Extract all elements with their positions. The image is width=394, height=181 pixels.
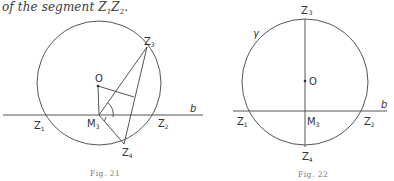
fig22-label-m3: M: [307, 116, 316, 127]
svg-text:Z2: Z2: [158, 118, 169, 130]
fig21-caption: Fig. 21: [90, 169, 120, 178]
figure-21: Z3 O b Z1 M3 Z2 Z4 Fig. 21: [3, 21, 203, 178]
fig21-label-b: b: [190, 103, 196, 114]
fig21-segment-m3-z4: [99, 115, 124, 144]
fig21-angle-arc-lower: [104, 117, 106, 121]
fig21-label-o: O: [95, 73, 103, 84]
fig22-label-b: b: [381, 99, 387, 110]
figures-canvas: Z3 O b Z1 M3 Z2 Z4 Fig. 21 Z3 γ O b Z1 M…: [0, 0, 394, 181]
svg-text:Z1: Z1: [34, 120, 45, 132]
svg-text:Z4: Z4: [122, 147, 133, 159]
fig21-point-o: [97, 85, 100, 88]
svg-text:M3: M3: [307, 116, 320, 128]
svg-text:Z3: Z3: [301, 5, 313, 16]
fig21-segment-o-m3: [98, 86, 99, 115]
figure-22: Z3 γ O b Z1 M3 Z2 Z4 Fig. 22: [233, 5, 387, 179]
fig21-segment-m3-z3: [99, 47, 147, 115]
fig22-point-o: [304, 80, 307, 83]
svg-text:Z2: Z2: [364, 116, 375, 128]
svg-text:M3: M3: [87, 118, 100, 130]
fig22-label-gamma: γ: [253, 28, 260, 39]
fig21-label-m3: M: [87, 118, 96, 129]
svg-text:Z1: Z1: [237, 116, 248, 128]
svg-text:Z3: Z3: [144, 36, 155, 48]
svg-text:Z4: Z4: [302, 151, 313, 163]
fig22-label-o: O: [309, 76, 317, 87]
fig22-label-z3: Z: [301, 5, 308, 16]
fig22-caption: Fig. 22: [298, 170, 328, 179]
